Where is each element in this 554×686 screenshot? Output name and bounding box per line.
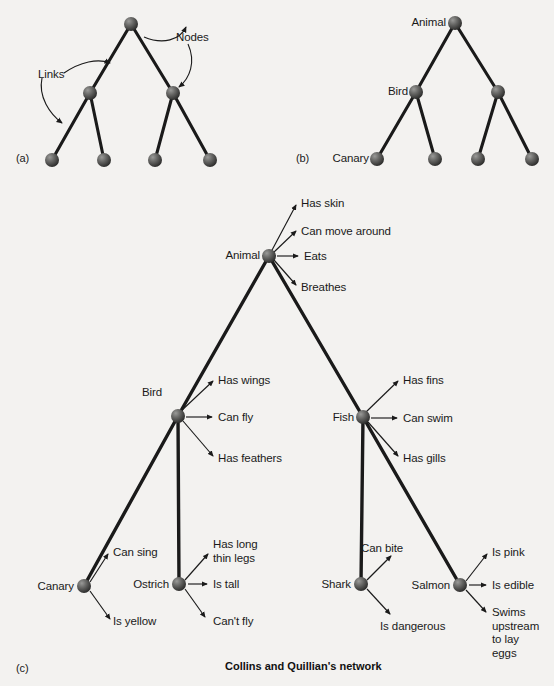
isa-bird-canary [84,416,178,586]
isa-fish-salmon [363,417,460,585]
node-bird [171,409,185,423]
annotation-links: Links [38,68,64,82]
node-label-canary: Canary [10,580,74,594]
isa-bird-ostrich [178,416,179,584]
property-label-eats: Eats [304,250,327,264]
node-label-shark: Shark [291,578,351,592]
property-label-has-long-thin-legs: Has long thin legs [213,538,258,565]
property-label-has-feathers: Has feathers [218,452,282,466]
isa-fish-shark [361,417,363,584]
annotation-nodes: Nodes [176,31,209,45]
node-label-salmon: Salmon [382,579,450,593]
node-label-fish: Fish [298,411,354,425]
property-label-has-gills: Has gills [403,452,446,466]
property-label-can-fly: Can fly [218,411,253,425]
node-label-bird: Bird [106,386,162,400]
node-salmon [453,578,467,592]
property-label-has-skin: Has skin [301,197,344,211]
property-label-can-move-around: Can move around [301,225,391,239]
property-label-cant-fly: Can't fly [213,615,253,629]
property-label-can-swim: Can swim [403,412,453,426]
node-label-ostrich: Ostrich [105,578,169,592]
property-label-is-tall: Is tall [213,578,239,592]
property-label-is-edible: Is edible [492,579,534,593]
node-label-canary-b: Canary [295,152,369,166]
network-diagram-svg [0,0,554,686]
property-label-is-dangerous: Is dangerous [380,620,445,634]
property-label-is-yellow: Is yellow [113,615,156,629]
property-label-has-wings: Has wings [218,374,270,388]
node-shark [354,577,368,591]
property-label-swims-upstream-to-lay-eggs: Swims upstream to lay eggs [492,606,539,660]
property-label-has-fins: Has fins [403,374,444,388]
node-label-animal-b: Animal [366,16,446,30]
node-animal [262,249,276,263]
panel-tag-c: (c) [16,662,29,676]
node-fish [356,410,370,424]
node-label-bird-b: Bird [338,85,408,99]
property-label-is-pink: Is pink [492,546,525,560]
figure-canvas: (a) Nodes Links (b) Animal Bird Canary (… [0,0,554,686]
figure-caption: Collins and Quillian's network [225,660,382,672]
isa-animal-bird [178,256,269,416]
property-label-can-bite: Can bite [361,542,403,556]
panel-tag-a: (a) [16,152,29,166]
node-ostrich [172,577,186,591]
node-canary [77,579,91,593]
property-label-breathes: Breathes [301,281,346,295]
property-label-can-sing: Can sing [113,546,158,560]
node-label-animal: Animal [190,249,260,263]
